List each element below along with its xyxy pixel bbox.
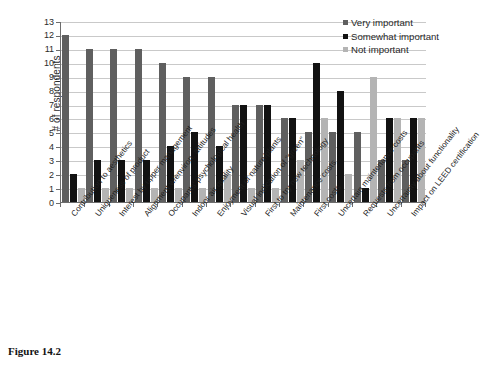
legend-item-label: Not important bbox=[351, 43, 409, 57]
legend: Very important Somewhat important Not im… bbox=[343, 16, 439, 57]
figure-caption: Figure 14.2 bbox=[8, 345, 61, 357]
legend-item: Very important bbox=[343, 16, 439, 30]
square-swatch-icon bbox=[343, 34, 348, 39]
legend-item: Somewhat important bbox=[343, 30, 439, 44]
legend-item-label: Very important bbox=[351, 16, 413, 30]
square-swatch-icon bbox=[343, 20, 348, 25]
legend-item: Not important bbox=[343, 43, 439, 57]
square-swatch-icon bbox=[343, 47, 348, 52]
legend-item-label: Somewhat important bbox=[351, 30, 439, 44]
